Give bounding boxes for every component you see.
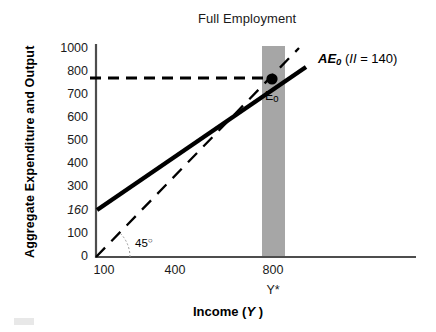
corner-mark [14,318,34,325]
equilibrium-point-marker [266,73,277,84]
y-tick-label-intercept: 160 [44,204,88,217]
x-axis-title-text: Income ( [193,304,246,319]
chart-figure: Full Employment Aggregate Expenditure an… [0,0,436,332]
x-axis-title-close: ) [255,304,263,319]
y-star-label: Y* [253,284,293,297]
equilibrium-point-label: E0 [265,90,279,104]
y-tick-label: 300 [44,180,88,193]
angle-annotation-label: 45○ [135,237,153,250]
angle-value: 45 [135,237,148,249]
equilibrium-label-subscript: 0 [273,93,278,104]
ae0-label-investment: II [349,51,356,66]
ae0-series-label: AE0 (II = 140) [318,52,397,67]
y-tick-label: 600 [44,111,88,124]
angle-arc [120,233,130,257]
y-tick-label: 100 [44,227,88,240]
x-tick-label: 800 [243,264,303,277]
y-tick-label: 800 [44,65,88,78]
y-tick-label: 1000 [44,42,88,55]
x-axis-title: Income (Y ) [128,305,328,318]
ae0-label-name: AE [318,51,336,66]
chart-title: Full Employment [198,12,296,25]
y-axis-title: Aggregate Expenditure and Output [24,46,37,258]
x-tick-label: 100 [74,264,134,277]
y-tick-label: 500 [44,134,88,147]
x-axis-title-variable: Y [246,304,255,319]
y-tick-label: 0 [44,250,88,263]
y-tick-label: 700 [44,88,88,101]
degree-symbol-icon: ○ [148,236,153,245]
y-tick-label: 400 [44,157,88,170]
ae0-label-value: = 140) [357,51,398,66]
x-tick-label: 400 [145,264,205,277]
